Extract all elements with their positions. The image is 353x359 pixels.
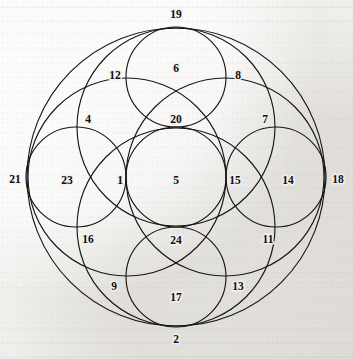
label-23-text: 23 bbox=[61, 174, 73, 186]
label-20-text: 20 bbox=[170, 113, 182, 125]
label-2-text: 2 bbox=[173, 333, 179, 345]
label-13-text: 13 bbox=[232, 280, 244, 292]
label-11-text: 11 bbox=[263, 233, 274, 245]
label-19-text: 19 bbox=[170, 8, 182, 20]
scanned-page: 1919222121181812128866447720202323115515… bbox=[0, 0, 353, 359]
label-15: 1515 bbox=[229, 174, 241, 186]
label-1-text: 1 bbox=[117, 174, 123, 186]
label-2: 22 bbox=[173, 333, 179, 345]
label-9: 99 bbox=[111, 280, 117, 292]
label-1: 11 bbox=[117, 174, 123, 186]
label-12: 1212 bbox=[109, 69, 121, 81]
left-medium-circle bbox=[28, 78, 226, 276]
label-23: 2323 bbox=[61, 174, 73, 186]
label-14-text: 14 bbox=[282, 174, 294, 186]
label-14: 1414 bbox=[282, 174, 294, 186]
label-24-text: 24 bbox=[170, 234, 182, 246]
label-7: 77 bbox=[262, 113, 268, 125]
label-17: 1717 bbox=[170, 291, 182, 303]
label-13: 1313 bbox=[232, 280, 244, 292]
label-24: 2424 bbox=[170, 234, 182, 246]
right-medium-circle bbox=[126, 78, 324, 276]
label-20: 2020 bbox=[170, 113, 182, 125]
label-17-text: 17 bbox=[170, 291, 182, 303]
label-15-text: 15 bbox=[229, 174, 241, 186]
label-5-text: 5 bbox=[173, 174, 179, 186]
circle-packing-figure: 1919222121181812128866447720202323115515… bbox=[0, 0, 353, 359]
right-small-circle bbox=[226, 127, 326, 227]
labels-group: 1919222121181812128866447720202323115515… bbox=[9, 8, 344, 345]
label-8-text: 8 bbox=[235, 69, 241, 81]
left-small-circle bbox=[26, 127, 126, 227]
label-12-text: 12 bbox=[109, 69, 121, 81]
label-16: 1616 bbox=[82, 233, 94, 245]
label-21-text: 21 bbox=[9, 173, 21, 185]
label-16-text: 16 bbox=[82, 233, 94, 245]
label-21: 2121 bbox=[9, 173, 21, 185]
label-5: 55 bbox=[173, 174, 179, 186]
label-6-text: 6 bbox=[173, 62, 179, 74]
label-4-text: 4 bbox=[85, 113, 91, 125]
label-9-text: 9 bbox=[111, 280, 117, 292]
label-8: 88 bbox=[235, 69, 241, 81]
label-11: 1111 bbox=[263, 233, 274, 245]
label-18-text: 18 bbox=[332, 173, 344, 185]
label-18: 1818 bbox=[332, 173, 344, 185]
label-7-text: 7 bbox=[262, 113, 268, 125]
label-6: 66 bbox=[173, 62, 179, 74]
label-4: 44 bbox=[85, 113, 91, 125]
label-19: 1919 bbox=[170, 8, 182, 20]
